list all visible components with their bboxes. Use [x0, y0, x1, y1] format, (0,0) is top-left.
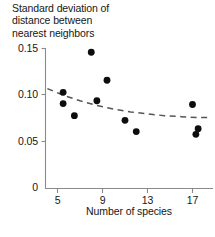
- y-axis-ticks: [42, 49, 46, 142]
- data-point: [104, 77, 111, 84]
- data-point: [60, 100, 67, 107]
- x-axis-title: Number of species: [45, 205, 213, 217]
- axes: [45, 48, 213, 189]
- y-tick-label-0.15: 0.15: [4, 42, 38, 54]
- data-point: [60, 89, 67, 96]
- data-point: [189, 101, 196, 108]
- x-axis-ticks: [58, 189, 193, 194]
- data-point: [93, 97, 100, 104]
- y-tick-label-0: 0: [4, 181, 38, 193]
- y-tick-label-0.10: 0.10: [4, 88, 38, 100]
- data-point: [88, 49, 95, 56]
- data-point-group: [60, 49, 202, 138]
- data-point: [122, 117, 129, 124]
- chart-figure: Standard deviation of distance between n…: [0, 0, 215, 237]
- data-point: [133, 128, 140, 135]
- data-point: [195, 125, 202, 132]
- data-point: [71, 112, 78, 119]
- trend-line: [47, 89, 208, 118]
- y-tick-label-0.05: 0.05: [4, 135, 38, 147]
